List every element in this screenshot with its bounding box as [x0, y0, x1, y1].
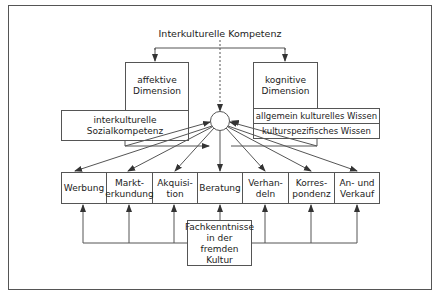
activity-werbung: Werbung	[61, 173, 107, 204]
cognitive-line2: Dimension	[262, 86, 310, 97]
activity-verhandeln: Verhan- deln	[242, 173, 289, 204]
cognitive-line1: kognitive	[265, 75, 306, 86]
expertise-line3: Kultur	[206, 255, 233, 266]
activity-line2: erkundung	[105, 189, 153, 200]
activity-markterkundung: Markt- erkundung	[106, 173, 153, 204]
activity-line1: An- und	[339, 178, 374, 189]
general-knowledge-label: allgemein kulturelles Wissen	[253, 109, 380, 124]
cognitive-dimension-label: kognitive Dimension	[253, 66, 318, 106]
activity-line1: Markt-	[115, 178, 144, 189]
activity-line1: Korres-	[296, 178, 327, 189]
activity-line1: Akquisi-	[157, 178, 193, 189]
social-competence-label: interkulturelle Sozialkompetenz	[61, 111, 189, 141]
activity-line1: Verhan-	[248, 178, 283, 189]
expertise-line2: in der fremden	[187, 233, 252, 255]
activity-korrespondenz: Korres- pondenz	[288, 173, 335, 204]
center-circle	[211, 112, 230, 131]
title: Interkulturelle Kompetenz	[150, 27, 290, 39]
expertise-line1: Fachkenntnisse	[185, 222, 254, 233]
activity-line2: Verkauf	[340, 189, 374, 200]
affective-dimension-label: affektive Dimension	[125, 66, 189, 106]
activity-an-und-verkauf: An- und Verkauf	[334, 173, 380, 204]
activity-line1: Beratung	[199, 183, 241, 194]
activity-beratung: Beratung	[197, 173, 243, 204]
activity-akquisition: Akquisi- tion	[152, 173, 198, 204]
social-line2: Sozialkompetenz	[87, 126, 163, 137]
social-line1: interkulturelle	[94, 115, 157, 126]
expertise-label: Fachkenntnisse in der fremden Kultur	[187, 222, 252, 265]
activity-line2: deln	[256, 189, 275, 200]
activity-line2: pondenz	[292, 189, 331, 200]
activity-line1: Werbung	[64, 183, 104, 194]
affective-line1: affektive	[137, 75, 176, 86]
affective-line2: Dimension	[133, 86, 181, 97]
activity-line2: tion	[166, 189, 183, 200]
specific-knowledge-label: kulturspezifisches Wissen	[253, 124, 380, 139]
